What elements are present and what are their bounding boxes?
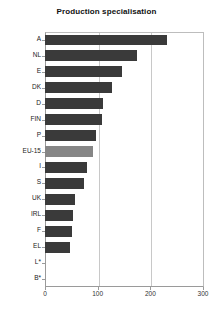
x-tick-mark bbox=[150, 287, 151, 290]
y-tick-label-e: E bbox=[0, 68, 41, 75]
y-tick-mark bbox=[42, 88, 45, 89]
x-tick-mark bbox=[203, 287, 204, 290]
x-tick-label-200: 200 bbox=[145, 290, 156, 297]
y-tick-mark bbox=[42, 40, 45, 41]
y-tick-label-i: I bbox=[0, 163, 41, 170]
y-tick-mark bbox=[42, 231, 45, 232]
bar-f bbox=[45, 226, 72, 237]
y-tick-mark bbox=[42, 199, 45, 200]
x-tick-label-100: 100 bbox=[92, 290, 103, 297]
x-tick-label-0: 0 bbox=[43, 290, 47, 297]
bar-irl bbox=[45, 210, 73, 221]
y-tick-mark bbox=[42, 247, 45, 248]
y-tick-mark bbox=[42, 56, 45, 57]
y-tick-mark bbox=[42, 215, 45, 216]
y-tick-mark bbox=[42, 136, 45, 137]
x-tick-label-300: 300 bbox=[198, 290, 209, 297]
y-tick-mark bbox=[42, 279, 45, 280]
bar-p bbox=[45, 130, 96, 141]
y-axis-labels: ANLEDKDFINPEU-15ISUKIRLFELL*B* bbox=[0, 32, 41, 287]
y-tick-label-dk: DK bbox=[0, 84, 41, 91]
bar-eu-15 bbox=[45, 146, 93, 157]
y-tick-label-b-: B* bbox=[0, 275, 41, 282]
y-tick-label-d: D bbox=[0, 100, 41, 107]
bars-layer bbox=[45, 32, 204, 287]
bar-i bbox=[45, 162, 87, 173]
bar-e bbox=[45, 66, 122, 77]
y-tick-mark bbox=[42, 263, 45, 264]
y-tick-label-el: EL bbox=[0, 243, 41, 250]
y-tick-label-l-: L* bbox=[0, 259, 41, 266]
y-tick-label-nl: NL bbox=[0, 52, 41, 59]
bar-nl bbox=[45, 50, 137, 61]
x-axis-labels: 0100200300 bbox=[0, 290, 213, 304]
bar-s bbox=[45, 178, 84, 189]
bar-el bbox=[45, 242, 70, 253]
y-tick-mark bbox=[42, 72, 45, 73]
y-tick-label-p: P bbox=[0, 132, 41, 139]
y-tick-mark bbox=[42, 104, 45, 105]
y-tick-label-fin: FIN bbox=[0, 116, 41, 123]
chart-title: Production specialisation bbox=[0, 7, 213, 16]
bar-fin bbox=[45, 114, 102, 125]
y-tick-mark bbox=[42, 183, 45, 184]
bar-d bbox=[45, 98, 103, 109]
bar-a bbox=[45, 35, 167, 46]
y-tick-mark bbox=[42, 152, 45, 153]
y-tick-label-eu-15: EU-15 bbox=[0, 148, 41, 155]
x-tick-mark bbox=[98, 287, 99, 290]
y-tick-mark bbox=[42, 167, 45, 168]
y-tick-label-a: A bbox=[0, 36, 41, 43]
y-tick-label-uk: UK bbox=[0, 195, 41, 202]
y-tick-mark bbox=[42, 120, 45, 121]
bar-uk bbox=[45, 194, 75, 205]
y-tick-label-s: S bbox=[0, 179, 41, 186]
chart-figure: Production specialisation ANLEDKDFINPEU-… bbox=[0, 0, 213, 318]
y-tick-label-irl: IRL bbox=[0, 211, 41, 218]
x-tick-mark bbox=[45, 287, 46, 290]
y-tick-label-f: F bbox=[0, 227, 41, 234]
bar-dk bbox=[45, 82, 112, 93]
